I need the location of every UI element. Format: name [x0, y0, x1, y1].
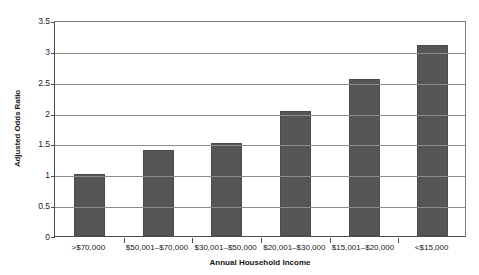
y-tick-label: 3 — [20, 47, 50, 57]
y-axis-tick — [51, 84, 55, 85]
x-tick-label: $50,001–$70,000 — [126, 243, 188, 252]
gridline — [55, 207, 465, 208]
y-axis-tick-labels: 00.511.522.533.5 — [20, 0, 50, 275]
y-tick-label: 0 — [20, 232, 50, 242]
x-tick-label: >$70,000 — [72, 243, 106, 252]
y-tick-label: 2 — [20, 109, 50, 119]
bar-chart: Adjusted Odds Ratio 00.511.522.533.5 >$7… — [0, 0, 479, 275]
y-tick-label: 1 — [20, 170, 50, 180]
bar — [211, 143, 242, 236]
x-tick-label: $15,001–$20,000 — [332, 243, 394, 252]
y-axis-tick — [51, 176, 55, 177]
y-tick-label: 1.5 — [20, 139, 50, 149]
bar — [143, 150, 174, 236]
plot-area — [54, 21, 466, 237]
bar — [280, 111, 311, 236]
y-tick-label: 3.5 — [20, 16, 50, 26]
y-axis-tick — [51, 22, 55, 23]
x-tick-label: $20,001–$30,000 — [263, 243, 325, 252]
y-axis-tick — [51, 145, 55, 146]
y-axis-tick — [51, 207, 55, 208]
bar — [349, 79, 380, 236]
y-tick-label: 0.5 — [20, 201, 50, 211]
y-axis-tick — [51, 53, 55, 54]
x-tick-label: <$15,000 — [415, 243, 449, 252]
y-axis-tick — [51, 115, 55, 116]
gridline — [55, 53, 465, 54]
x-tick-label: $30,001–$50,000 — [195, 243, 257, 252]
y-axis-tick — [51, 237, 55, 238]
gridline — [55, 84, 465, 85]
gridline — [55, 115, 465, 116]
y-tick-label: 2.5 — [20, 78, 50, 88]
x-axis-tick-labels: >$70,000$50,001–$70,000$30,001–$50,000$2… — [54, 243, 466, 257]
gridline — [55, 176, 465, 177]
x-axis-title: Annual Household Income — [54, 258, 466, 267]
bar — [74, 174, 105, 236]
gridline — [55, 145, 465, 146]
bar-series — [55, 22, 465, 236]
